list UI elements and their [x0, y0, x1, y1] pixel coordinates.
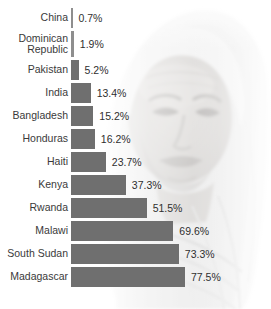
bar-track-dominican-republic: 1.9% — [71, 31, 104, 57]
bar-value-india: 13.4% — [97, 88, 127, 99]
bar-row-kenya: Kenya 37.3% — [0, 175, 271, 195]
bar-value-malawi: 69.6% — [179, 226, 209, 237]
bar-rows: China 0.7% Dominican Republic 1.9% Pakis… — [0, 0, 271, 309]
bar-value-rwanda: 51.5% — [153, 203, 183, 214]
bar-fill-china — [71, 8, 73, 28]
bar-value-south-sudan: 73.3% — [185, 249, 215, 260]
bar-fill-pakistan — [71, 60, 79, 80]
bar-track-india: 13.4% — [71, 83, 126, 103]
bar-track-china: 0.7% — [71, 8, 102, 28]
bar-fill-haiti — [71, 152, 106, 172]
bar-row-rwanda: Rwanda 51.5% — [0, 198, 271, 218]
bar-row-china: China 0.7% — [0, 8, 271, 28]
bar-row-india: India 13.4% — [0, 83, 271, 103]
bar-track-honduras: 16.2% — [71, 129, 131, 149]
bar-label-malawi: Malawi — [0, 225, 68, 237]
bar-track-madagascar: 77.5% — [71, 267, 221, 287]
bar-fill-madagascar — [71, 267, 185, 287]
bar-value-bangladesh: 15.2% — [99, 111, 129, 122]
bar-value-china: 0.7% — [79, 13, 103, 24]
bar-row-pakistan: Pakistan 5.2% — [0, 60, 271, 80]
bar-label-india: India — [0, 87, 68, 99]
bar-label-south-sudan: South Sudan — [0, 248, 68, 260]
bar-row-madagascar: Madagascar 77.5% — [0, 267, 271, 287]
bar-value-honduras: 16.2% — [101, 134, 131, 145]
bar-track-south-sudan: 73.3% — [71, 244, 215, 264]
bar-fill-honduras — [71, 129, 95, 149]
bar-track-kenya: 37.3% — [71, 175, 162, 195]
bar-track-malawi: 69.6% — [71, 221, 209, 241]
bar-row-bangladesh: Bangladesh 15.2% — [0, 106, 271, 126]
bar-value-madagascar: 77.5% — [191, 272, 221, 283]
bar-label-honduras: Honduras — [0, 133, 68, 145]
bar-row-dominican-republic: Dominican Republic 1.9% — [0, 31, 271, 57]
bar-value-pakistan: 5.2% — [85, 65, 109, 76]
bar-label-pakistan: Pakistan — [0, 64, 68, 76]
bar-fill-south-sudan — [71, 244, 179, 264]
bar-chart-figure: China 0.7% Dominican Republic 1.9% Pakis… — [0, 0, 271, 309]
bar-fill-bangladesh — [71, 106, 93, 126]
bar-row-malawi: Malawi 69.6% — [0, 221, 271, 241]
bar-fill-rwanda — [71, 198, 147, 218]
bar-track-haiti: 23.7% — [71, 152, 142, 172]
bar-row-haiti: Haiti 23.7% — [0, 152, 271, 172]
bar-track-bangladesh: 15.2% — [71, 106, 129, 126]
bar-value-kenya: 37.3% — [132, 180, 162, 191]
bar-label-haiti: Haiti — [0, 156, 68, 168]
bar-fill-dominican-republic — [71, 31, 74, 57]
bar-label-china: China — [0, 12, 68, 24]
bar-value-haiti: 23.7% — [112, 157, 142, 168]
bar-fill-malawi — [71, 221, 173, 241]
bar-track-pakistan: 5.2% — [71, 60, 109, 80]
bar-row-honduras: Honduras 16.2% — [0, 129, 271, 149]
bar-fill-kenya — [71, 175, 126, 195]
bar-label-madagascar: Madagascar — [0, 271, 68, 283]
bar-label-rwanda: Rwanda — [0, 202, 68, 214]
bar-label-bangladesh: Bangladesh — [0, 110, 68, 122]
bar-track-rwanda: 51.5% — [71, 198, 182, 218]
bar-label-kenya: Kenya — [0, 179, 68, 191]
bar-fill-india — [71, 83, 91, 103]
bar-value-dominican-republic: 1.9% — [80, 39, 104, 50]
bar-row-south-sudan: South Sudan 73.3% — [0, 244, 271, 264]
bar-label-dominican-republic: Dominican Republic — [0, 33, 68, 56]
